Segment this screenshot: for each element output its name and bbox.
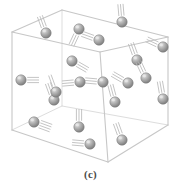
particle-sphere <box>74 24 84 34</box>
particle-sphere <box>41 28 51 38</box>
motion-line <box>157 82 159 93</box>
sphere-highlight <box>87 141 90 144</box>
motion-trail <box>157 81 164 93</box>
gas-particle <box>114 123 128 146</box>
sphere-highlight <box>96 37 99 40</box>
gas-particle <box>157 81 168 104</box>
particle-sphere <box>29 117 39 127</box>
gas-particle <box>129 43 143 66</box>
particle-sphere <box>141 73 151 83</box>
particle-sphere <box>158 94 168 104</box>
motion-trail <box>82 32 94 41</box>
sphere-highlight <box>76 26 79 29</box>
motion-trail <box>69 34 78 46</box>
motion-trail <box>49 75 55 86</box>
sphere-highlight <box>53 89 56 92</box>
motion-trail <box>114 123 123 135</box>
cube-with-particles-svg <box>0 0 181 170</box>
motion-trail <box>39 121 52 132</box>
cube-edge-bottom-right-front <box>108 125 168 162</box>
cube-edge-top-left-back <box>12 10 62 32</box>
cube-back-edges <box>12 10 168 130</box>
motion-trail <box>76 109 81 120</box>
gas-particle <box>111 72 133 88</box>
gas-particle <box>49 75 61 97</box>
particle-sphere <box>98 77 108 87</box>
motion-line <box>113 84 116 95</box>
gas-particle <box>62 77 85 87</box>
sphere-highlight <box>51 97 54 100</box>
gas-particle <box>72 139 95 149</box>
sphere-highlight <box>119 137 122 140</box>
motion-line <box>111 76 121 82</box>
motion-line <box>62 80 73 81</box>
particle-sphere <box>132 55 142 65</box>
gas-particle <box>16 75 39 85</box>
sphere-highlight <box>119 19 122 22</box>
cube-edge-vertical-front <box>100 52 108 162</box>
motion-line <box>63 85 74 86</box>
motion-line <box>163 81 165 92</box>
gas-container-diagram <box>0 0 181 170</box>
motion-line <box>123 4 124 15</box>
motion-line <box>113 74 123 80</box>
motion-line <box>72 142 83 143</box>
motion-line <box>62 83 73 84</box>
cube-edge-top-left-front <box>12 32 100 52</box>
gas-particle <box>108 84 120 107</box>
particle-sphere <box>158 42 168 52</box>
gas-particle <box>82 32 105 46</box>
motion-line <box>85 80 96 81</box>
particle-sphere <box>75 77 85 87</box>
motion-trail <box>62 80 73 86</box>
particles-layer <box>16 4 168 149</box>
motion-line <box>79 62 89 68</box>
motion-trail <box>72 140 83 146</box>
motion-trail <box>118 4 124 15</box>
sphere-highlight <box>160 96 163 99</box>
gas-particle <box>69 24 84 46</box>
particle-sphere <box>16 75 26 85</box>
particle-sphere <box>85 139 95 149</box>
particle-sphere <box>110 97 120 107</box>
motion-line <box>110 85 113 96</box>
particle-sphere <box>123 78 133 88</box>
gas-particle <box>29 117 52 132</box>
motion-line <box>160 82 162 93</box>
motion-line <box>78 64 88 70</box>
particle-sphere <box>94 35 104 45</box>
motion-line <box>85 83 96 84</box>
sphere-highlight <box>31 119 34 122</box>
particle-sphere <box>67 56 77 66</box>
particle-sphere <box>117 135 127 145</box>
motion-trail <box>85 78 96 84</box>
particle-sphere <box>74 122 84 132</box>
sphere-highlight <box>125 80 128 83</box>
sphere-highlight <box>160 44 163 47</box>
gas-particle <box>67 56 89 72</box>
motion-line <box>72 145 83 146</box>
gas-particle <box>85 77 108 87</box>
figure-caption: (c) <box>0 168 181 180</box>
motion-line <box>118 5 119 16</box>
motion-line <box>120 4 121 15</box>
motion-trail <box>108 84 116 96</box>
particle-sphere <box>51 87 61 97</box>
figure-container: (c) <box>0 0 181 188</box>
motion-line <box>73 140 84 141</box>
motion-line <box>86 78 97 79</box>
motion-trail <box>76 62 88 72</box>
gas-particle <box>38 16 52 39</box>
sphere-highlight <box>43 30 46 32</box>
sphere-highlight <box>77 79 80 82</box>
motion-trail <box>111 72 123 82</box>
motion-line <box>76 67 86 73</box>
sphere-highlight <box>134 57 137 60</box>
sphere-highlight <box>18 77 21 80</box>
particle-sphere <box>117 17 127 27</box>
sphere-highlight <box>69 58 72 61</box>
sphere-highlight <box>76 124 79 127</box>
sphere-highlight <box>100 79 103 82</box>
gas-particle <box>117 4 127 27</box>
gas-particle <box>74 109 84 132</box>
